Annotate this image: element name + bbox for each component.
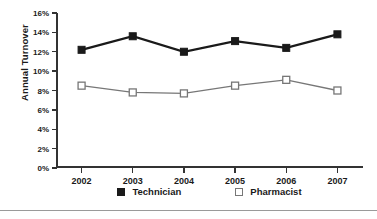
- x-tick-label: 2003: [123, 176, 143, 186]
- x-tick-mark: [81, 168, 82, 173]
- plot-area: 0%2%4%6%8%10%12%14%16% 20022003200420052…: [56, 13, 363, 168]
- y-tick-label: 8%: [37, 86, 49, 95]
- x-tick-label: 2005: [225, 176, 245, 186]
- data-point-marker: [129, 89, 136, 96]
- data-point-marker: [78, 46, 85, 53]
- series-layer: [56, 13, 363, 168]
- legend-entry: Technician: [117, 186, 181, 197]
- x-tick-label: 2004: [174, 176, 194, 186]
- series-line-pharmacist: [82, 80, 338, 94]
- data-point-marker: [180, 90, 187, 97]
- x-tick-label: 2002: [72, 176, 92, 186]
- y-axis-title: Annual Turnover: [19, 0, 30, 133]
- data-point-marker: [334, 31, 341, 38]
- data-point-marker: [232, 82, 239, 89]
- legend-label: Pharmacist: [250, 186, 301, 197]
- data-point-marker: [232, 38, 239, 45]
- data-point-marker: [78, 82, 85, 89]
- x-tick-label: 2007: [327, 176, 347, 186]
- x-tick-mark: [183, 168, 184, 173]
- y-tick-label: 2%: [37, 144, 49, 153]
- open-square-icon: [235, 188, 243, 196]
- data-point-marker: [180, 48, 187, 55]
- chart-legend: TechnicianPharmacist: [56, 186, 363, 197]
- data-point-marker: [334, 87, 341, 94]
- y-tick-label: 12%: [33, 47, 49, 56]
- y-tick-label: 14%: [33, 28, 49, 37]
- y-tick-label: 0%: [37, 164, 49, 173]
- legend-entry: Pharmacist: [235, 186, 301, 197]
- legend-label: Technician: [132, 186, 181, 197]
- y-tick-label: 4%: [37, 125, 49, 134]
- y-tick-label: 10%: [33, 67, 49, 76]
- y-tick-label: 6%: [37, 105, 49, 114]
- data-point-marker: [283, 44, 290, 51]
- x-tick-mark: [286, 168, 287, 173]
- bottom-divider: [0, 210, 377, 211]
- annual-turnover-line-chart: Annual Turnover 0%2%4%6%8%10%12%14%16% 2…: [0, 0, 377, 219]
- x-tick-mark: [234, 168, 235, 173]
- y-tick-label: 16%: [33, 9, 49, 18]
- data-point-marker: [129, 33, 136, 40]
- x-tick-label: 2006: [276, 176, 296, 186]
- x-tick-mark: [337, 168, 338, 173]
- data-point-marker: [283, 76, 290, 83]
- filled-square-icon: [117, 188, 125, 196]
- series-line-technician: [82, 34, 338, 51]
- x-tick-mark: [132, 168, 133, 173]
